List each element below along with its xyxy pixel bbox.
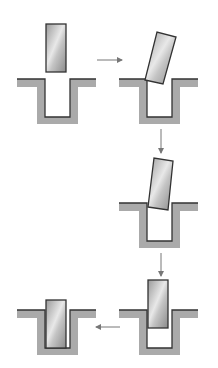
step-5-block-fully-seated xyxy=(17,300,96,355)
block xyxy=(148,280,168,328)
block xyxy=(148,158,173,210)
diagram-canvas xyxy=(0,0,218,368)
block xyxy=(46,300,66,348)
channel-ground xyxy=(119,79,198,124)
channel-ground xyxy=(119,203,198,248)
step-4-block-partially-inserted xyxy=(119,280,198,355)
channel-ground xyxy=(17,79,96,124)
step-2-block-tilted-at-edge xyxy=(119,32,198,124)
step-1-block-above-channel xyxy=(17,24,96,124)
block xyxy=(46,24,66,72)
step-3-block-entering-tilted xyxy=(119,158,198,248)
block xyxy=(145,32,176,84)
